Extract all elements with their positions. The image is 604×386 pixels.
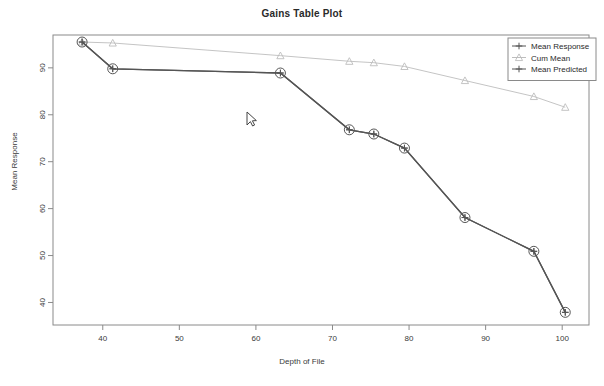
gains-table-plot: Gains Table Plot Mean Response Depth of … <box>0 0 604 386</box>
mouse-pointer-icon <box>247 112 256 126</box>
legend-item-label: Mean Response <box>531 42 590 51</box>
y-tick-label: 70 <box>39 157 48 166</box>
x-tick-label: 60 <box>251 334 260 343</box>
series-layer <box>77 37 570 317</box>
y-tick-label: 60 <box>39 204 48 213</box>
series-line <box>82 42 565 107</box>
legend-item-label: Mean Predicted <box>531 65 587 74</box>
x-tick-label: 100 <box>556 334 570 343</box>
series-mean-response <box>77 37 570 317</box>
y-tick-label: 90 <box>38 63 47 72</box>
x-tick-label: 40 <box>98 334 107 343</box>
chart-legend[interactable]: Mean ResponseCum MeanMean Predicted <box>508 38 596 81</box>
x-tick-label: 70 <box>328 334 337 343</box>
series-line <box>82 42 565 312</box>
y-tick-label: 50 <box>39 251 48 260</box>
x-axis: 405060708090100 <box>98 325 569 343</box>
mouse-pointer-icon <box>247 112 256 126</box>
series-cum-mean <box>78 38 568 110</box>
x-tick-label: 80 <box>405 334 414 343</box>
series-mean-predicted <box>79 39 569 316</box>
x-tick-label: 90 <box>481 334 490 343</box>
chart-canvas: 405060708090100 405060708090 Mean Respon… <box>0 0 604 386</box>
y-tick-label: 80 <box>39 110 48 119</box>
legend-item-label: Cum Mean <box>531 54 570 63</box>
y-axis: 405060708090 <box>38 63 53 307</box>
y-tick-label: 40 <box>39 297 48 306</box>
series-line <box>82 42 565 312</box>
x-tick-label: 50 <box>175 334 184 343</box>
